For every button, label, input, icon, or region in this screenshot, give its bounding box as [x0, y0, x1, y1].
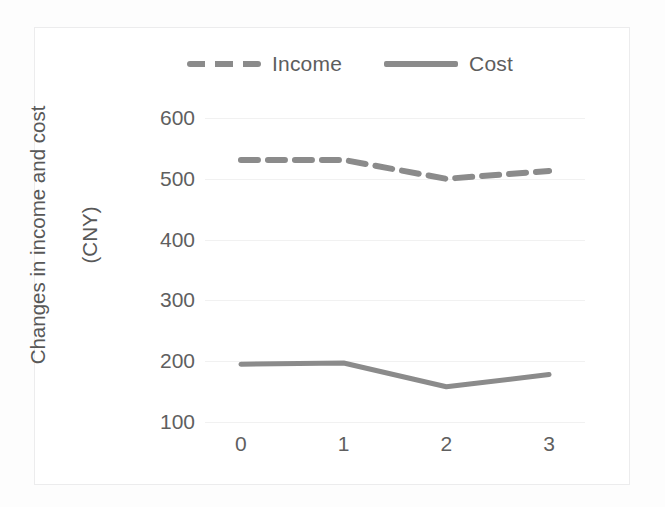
x-tick-label-2: 2	[416, 432, 476, 456]
legend-item-income[interactable]: Income	[187, 52, 342, 76]
legend-label-cost: Cost	[469, 52, 513, 76]
x-tick-label-1: 1	[314, 432, 374, 456]
y-axis-title-line-2: (CNY)	[77, 85, 103, 385]
solid-line-swatch-icon	[384, 61, 458, 67]
gridline-y-100	[205, 422, 585, 423]
y-tick-label-600: 600	[133, 106, 195, 130]
legend-item-cost[interactable]: Cost	[384, 52, 513, 76]
y-tick-label-200: 200	[133, 349, 195, 373]
series-lines	[205, 118, 585, 422]
y-axis-title: Changes in income and cost (CNY)	[0, 85, 129, 385]
y-tick-label-100: 100	[133, 410, 195, 434]
legend-label-income: Income	[272, 52, 342, 76]
y-tick-label-500: 500	[133, 167, 195, 191]
chart-container: Income Cost Changes in income and cost (…	[0, 0, 665, 507]
dashed-line-swatch-icon	[187, 61, 261, 67]
x-tick-label-3: 3	[519, 432, 579, 456]
series-line-income	[241, 160, 549, 179]
y-tick-label-400: 400	[133, 228, 195, 252]
plot-area	[205, 118, 585, 422]
y-axis-title-line-1: Changes in income and cost	[25, 85, 51, 385]
series-line-cost	[241, 363, 549, 387]
x-tick-label-0: 0	[211, 432, 271, 456]
x-axis-tick-labels: 0123	[205, 432, 585, 466]
y-axis-tick-labels: 100200300400500600	[133, 118, 195, 422]
chart-legend: Income Cost	[150, 46, 550, 82]
y-tick-label-300: 300	[133, 288, 195, 312]
